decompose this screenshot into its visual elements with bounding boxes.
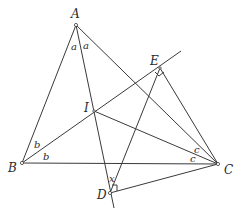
segment-BC [22, 163, 218, 164]
angle-label-c-lower: c [190, 153, 196, 164]
diagram-canvas: A B C I E D a a b b c c x [0, 0, 240, 221]
angle-label-a-right: a [83, 40, 89, 51]
angle-label-a-left: a [71, 41, 77, 52]
angle-label-b-upper: b [34, 139, 40, 150]
segment-CD [110, 164, 218, 193]
point-D [108, 191, 111, 194]
label-D: D [96, 188, 107, 202]
label-C: C [224, 163, 233, 177]
point-C [216, 162, 219, 165]
point-A [74, 23, 77, 26]
label-B: B [7, 161, 17, 175]
point-I [93, 110, 95, 112]
label-I: I [83, 101, 89, 115]
segment-DE [110, 68, 160, 193]
right-angle-marker-E [155, 72, 164, 76]
point-E [159, 67, 161, 69]
angle-label-x: x [109, 173, 115, 184]
geometry-diagram: A B C I E D a a b b c c x [0, 0, 240, 221]
label-A: A [70, 7, 80, 21]
bisector-C-through-I [94, 111, 218, 164]
label-E: E [149, 54, 159, 68]
angle-label-b-lower: b [43, 151, 49, 162]
point-B [20, 161, 23, 164]
segment-AB [22, 25, 76, 163]
